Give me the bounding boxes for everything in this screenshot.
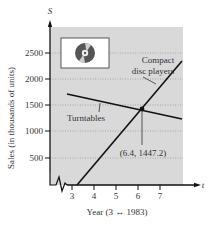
y-axis-var: S — [48, 6, 53, 16]
turntables-label: Turntables — [67, 113, 106, 123]
intersection-label: (6.4, 1447.2) — [120, 148, 167, 158]
y-tick-label: 1500 — [25, 100, 44, 110]
chart: 2500 2000 1500 1000 500 S Sales (in thou… — [0, 0, 208, 225]
x-axis-var: t — [202, 180, 205, 190]
x-tick-label: 3 — [70, 191, 75, 201]
y-tick-label: 2500 — [25, 48, 44, 58]
y-axis-title: Sales (in thousands of units) — [6, 67, 16, 169]
intersection-point — [140, 107, 145, 112]
cd-label-line2: disc players — [132, 66, 175, 76]
x-tick-label: 6 — [136, 191, 141, 201]
y-tick-label: 1000 — [25, 126, 44, 136]
y-tick-label: 2000 — [25, 74, 44, 84]
x-tick-label: 4 — [92, 191, 97, 201]
x-axis-title: Year (3 ↔ 1983) — [87, 207, 148, 217]
x-tick-label: 5 — [114, 191, 119, 201]
cd-label-line1: Compact — [142, 55, 175, 65]
x-tick-label: 7 — [158, 191, 163, 201]
compact-disc-icon — [61, 38, 109, 68]
y-tick-label: 500 — [30, 153, 44, 163]
x-axis: 3 4 5 6 7 t Year (3 ↔ 1983) — [67, 180, 205, 217]
